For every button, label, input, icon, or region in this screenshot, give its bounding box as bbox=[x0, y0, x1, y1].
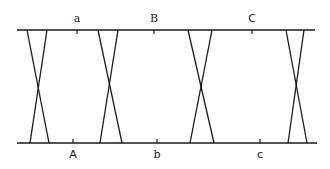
top-label-C: C bbox=[248, 12, 256, 25]
top-label-B: B bbox=[150, 12, 158, 25]
line-diagram: a B C A b c bbox=[0, 0, 330, 169]
crossing-2-line-b bbox=[100, 30, 118, 143]
crossing-3-line-b bbox=[190, 30, 212, 143]
bottom-label-A: A bbox=[69, 148, 77, 161]
crossing-1-line-b bbox=[30, 30, 47, 143]
diagram-canvas: a B C A b c bbox=[0, 0, 330, 169]
crossing-2-line-a bbox=[98, 30, 122, 143]
bottom-label-c: c bbox=[257, 148, 263, 161]
diagram-lines bbox=[17, 30, 317, 143]
top-label-a: a bbox=[74, 12, 81, 25]
crossing-4-line-b bbox=[288, 30, 304, 143]
bottom-label-b: b bbox=[153, 148, 160, 161]
